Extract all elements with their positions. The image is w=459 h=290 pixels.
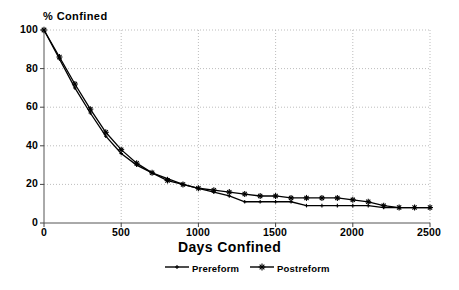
series-prereform [44, 30, 432, 209]
plot-area [0, 0, 459, 290]
data-series-layer [41, 27, 433, 211]
series-postreform [41, 27, 433, 211]
legend-markers [165, 264, 274, 271]
chart-figure: % Confined Days Confined 0 20 40 60 80 1… [0, 0, 459, 290]
